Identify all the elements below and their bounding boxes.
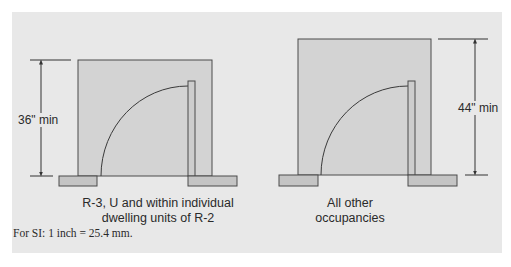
left-caption-line1: R-3, U and within individual [58, 196, 258, 211]
left-caption: R-3, U and within individual dwelling un… [58, 196, 258, 226]
si-conversion-footnote: For SI: 1 inch = 25.4 mm. [13, 227, 133, 239]
right-dimension-label: 44" min [457, 101, 499, 115]
door-clearance-figure: 36" min 44" min R-3, U and within indivi… [0, 0, 511, 267]
left-caption-line2: dwelling units of R-2 [58, 211, 258, 226]
right-caption-line1: All other [295, 196, 405, 211]
left-door-leaf [188, 81, 195, 176]
left-jamb-right [188, 176, 237, 186]
left-dimension-label: 36" min [17, 113, 59, 127]
right-jamb-right [408, 175, 457, 186]
left-door-diagram [30, 60, 237, 186]
right-jamb-left [279, 175, 318, 186]
left-jamb-left [59, 176, 97, 186]
right-door-leaf [408, 81, 415, 175]
right-caption: All other occupancies [295, 196, 405, 226]
right-caption-line2: occupancies [295, 211, 405, 226]
